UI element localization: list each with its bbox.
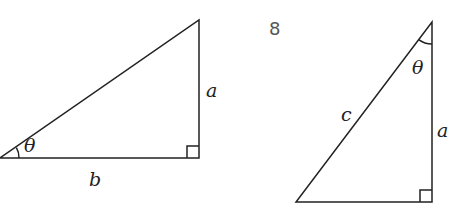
right-triangle xyxy=(296,22,432,202)
right-triangle-outline xyxy=(296,22,432,202)
left-theta-label: θ xyxy=(24,134,36,156)
right-theta-label: θ xyxy=(412,56,424,78)
left-side-b-label: b xyxy=(89,168,101,190)
right-angle-arc xyxy=(419,40,432,44)
left-right-angle-marker xyxy=(187,146,199,158)
left-side-a-label: a xyxy=(206,79,217,101)
left-angle-arc xyxy=(16,148,19,158)
trig-figure: θ a b 8 θ c a xyxy=(0,0,454,217)
problem-number: 8 xyxy=(269,18,280,39)
right-side-a-label: a xyxy=(437,119,448,141)
right-right-angle-marker xyxy=(420,190,432,202)
right-side-c-label: c xyxy=(341,103,352,125)
